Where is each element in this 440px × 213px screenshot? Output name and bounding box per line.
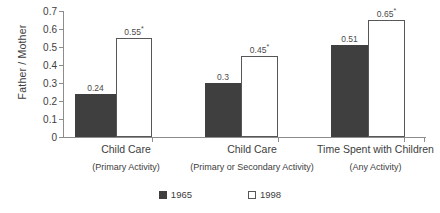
y-tick-mark-0.6 [59,29,63,30]
category-separator-tick-1 [152,137,153,142]
legend-item-1965[interactable]: 1965 [159,189,192,200]
category-label-line2: (Primary or Secondary Activity) [189,163,315,172]
category-label-child-care-primary: Child Care (Primary Activity) [63,144,189,172]
category-separator-tick-2 [278,137,279,142]
significance-marker: * [266,43,269,50]
y-tick-mark-0.3 [59,83,63,84]
y-tick-mark-0.7 [59,11,63,12]
bar-1998-child-care-primary[interactable]: 0.55* [116,38,152,137]
y-tick-mark-0.4 [59,65,63,66]
significance-marker: * [141,25,144,32]
legend-swatch-filled-icon [159,191,167,199]
bar-value-label: 0.3 [217,72,229,82]
plot-area: 0 0.1 0.2 0.3 0.4 0.5 0.6 0.7 0.24 0.55*… [63,11,425,137]
significance-marker: * [393,7,396,14]
legend-label: 1965 [171,189,192,200]
bar-1998-child-care-primary-secondary[interactable]: 0.45* [241,56,278,137]
category-label-line1: Child Care [189,144,315,155]
chart-legend: 1965 1998 [0,189,440,200]
category-label-child-care-primary-secondary: Child Care (Primary or Secondary Activit… [189,144,315,172]
y-axis-title: Father / Mother [16,7,28,117]
bar-1998-time-spent-with-children[interactable]: 0.65* [368,20,405,137]
legend-item-1998[interactable]: 1998 [248,189,281,200]
category-separator-tick-3 [404,137,405,142]
x-axis-line [63,137,426,138]
category-label-line1: Time Spent with Children [311,144,440,155]
bar-1965-time-spent-with-children[interactable]: 0.51 [331,45,368,137]
bar-value-label: 0.55* [124,25,143,37]
bar-1965-child-care-primary[interactable]: 0.24 [75,94,116,137]
category-label-line2: (Primary Activity) [63,163,189,172]
category-label-line2: (Any Activity) [311,163,440,172]
category-separator-tick-4 [424,137,425,142]
bar-value-label: 0.45* [250,43,269,55]
bar-value-label: 0.24 [87,83,104,93]
bar-value-label: 0.65* [377,7,396,19]
bar-chart: Father / Mother 0 0.1 0.2 0.3 0.4 0.5 0.… [0,0,440,213]
y-tick-mark-0 [59,137,63,138]
category-label-line1: Child Care [63,144,189,155]
legend-label: 1998 [260,189,281,200]
y-tick-mark-0.5 [59,47,63,48]
bar-value-label: 0.51 [341,34,358,44]
y-tick-mark-0.2 [59,101,63,102]
y-tick-mark-0.1 [59,119,63,120]
legend-swatch-hollow-icon [248,191,256,199]
category-label-time-spent-with-children: Time Spent with Children (Any Activity) [311,144,440,172]
bar-1965-child-care-primary-secondary[interactable]: 0.3 [205,83,241,137]
